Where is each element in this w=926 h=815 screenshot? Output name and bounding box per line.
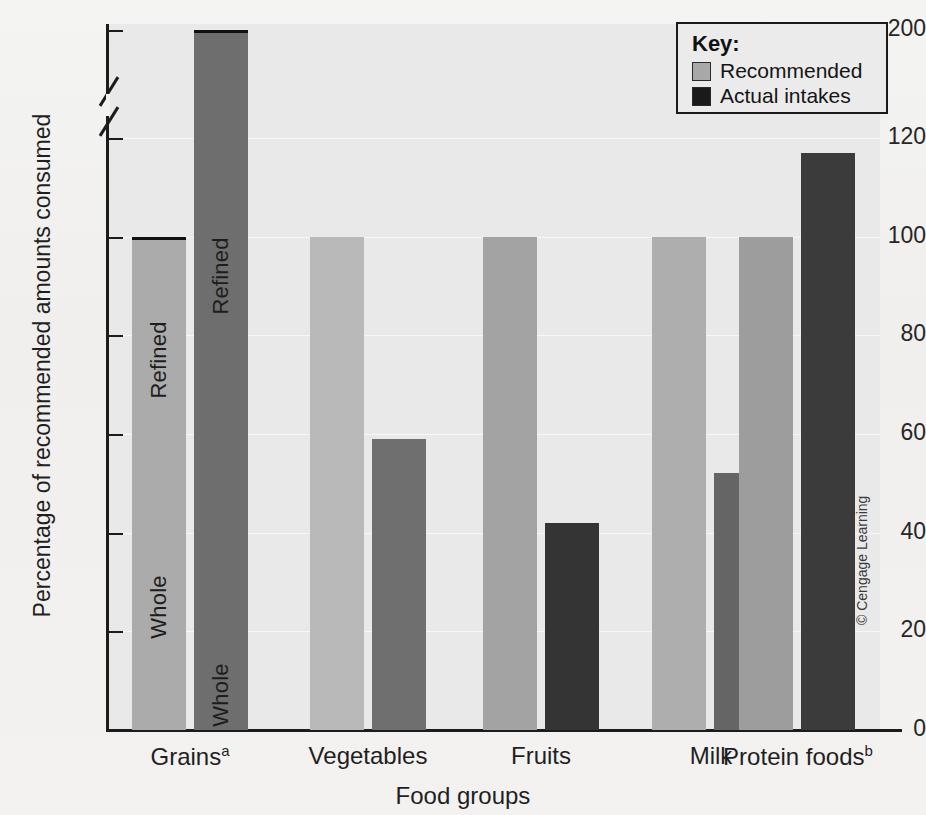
bar-segment-label: Refined [146, 321, 172, 398]
legend-label-recommended: Recommended [720, 59, 862, 83]
legend-item-actual-intakes: Actual intakes [692, 84, 886, 108]
bar-segment-label: Refined [208, 238, 234, 315]
bar-chart: 020406080100120200 WholeRefinedWholeRefi… [0, 0, 926, 815]
y-tick-mark [109, 533, 123, 535]
bar-segment-divider [132, 237, 186, 240]
bar-grains-recommended: WholeRefined [132, 237, 186, 730]
axis-break-mask [106, 94, 110, 116]
y-axis-line [106, 24, 109, 732]
bar-segment-divider [194, 30, 248, 33]
bar-fruits-recommended [483, 237, 537, 730]
y-tick-mark [109, 30, 123, 32]
bar-milk-recommended [652, 237, 706, 730]
y-tick-mark [109, 138, 123, 140]
bar-vegetables-actual-intakes [372, 439, 426, 730]
y-axis-title: Percentage of recommended amounts consum… [29, 56, 56, 676]
bar-vegetables-recommended [310, 237, 364, 730]
bar-protein-foods-recommended [739, 237, 793, 730]
x-label-protein-foods: Protein foodsb [668, 742, 926, 771]
y-tick-mark [109, 730, 123, 732]
bar-fruits-actual-intakes [545, 523, 599, 730]
y-tick-label: 120 [834, 123, 926, 150]
legend-title: Key: [692, 31, 886, 57]
y-tick-mark [109, 434, 123, 436]
y-tick-mark [109, 237, 123, 239]
y-tick-mark [109, 335, 123, 337]
legend-swatch-recommended [692, 62, 711, 81]
legend-item-recommended: Recommended [692, 59, 886, 83]
y-tick-mark [109, 631, 123, 633]
copyright-credit: © Cengage Learning [854, 465, 870, 625]
legend-box: Key: Recommended Actual intakes [676, 22, 888, 114]
bar-segment-label: Whole [146, 575, 172, 638]
legend-label-actual-intakes: Actual intakes [720, 84, 851, 108]
legend-swatch-actual-intakes [692, 87, 711, 106]
x-axis-title: Food groups [0, 782, 926, 810]
bar-protein-foods-actual-intakes [801, 153, 855, 730]
bar-segment-label: Whole [208, 664, 234, 727]
bar-grains-actual-intakes: WholeRefined [194, 30, 248, 730]
